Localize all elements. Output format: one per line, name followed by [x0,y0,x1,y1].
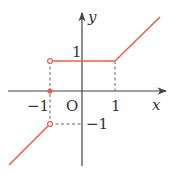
y-tick-neg1: −1 [86,115,108,133]
lower-ray [9,126,48,165]
open-point-lower [48,122,53,127]
origin-label: O [66,97,78,115]
upper-ray [115,17,160,61]
x-tick-1: 1 [111,97,121,115]
function-graph: y x O −1 1 1 −1 [0,0,176,179]
x-axis-label: x [152,96,161,114]
x-tick-neg1: −1 [27,97,49,115]
graph-canvas: y x O −1 1 1 −1 [0,0,176,179]
filled-point [47,88,52,93]
y-axis-label: y [87,8,97,26]
y-tick-1: 1 [72,43,82,61]
open-point-upper [48,59,53,64]
